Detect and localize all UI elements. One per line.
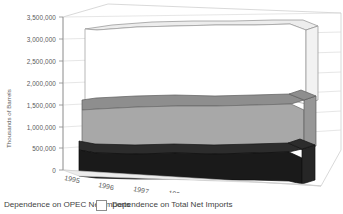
y-tick-label: 1,000,000 <box>27 124 57 131</box>
chart-root: 3,500,000 3,000,000 2,500,000 2,000,000 … <box>0 0 343 214</box>
legend-swatch-icon <box>96 200 107 211</box>
y-axis-tick-labels: 3,500,000 3,000,000 2,500,000 2,000,000 … <box>27 14 57 174</box>
y-tick-label: 1,500,000 <box>27 102 57 109</box>
y-axis-title: Thousands of Barrels <box>5 89 12 148</box>
x-tick-label: 1997 <box>133 185 150 193</box>
y-tick-label: 500,000 <box>32 145 56 152</box>
series-middle-band <box>82 90 316 151</box>
y-axis <box>59 17 63 170</box>
series-total-net-imports <box>85 20 318 106</box>
legend-label: Dependence on Total Net Imports <box>112 201 232 209</box>
x-tick-label: 1996 <box>98 181 115 191</box>
chart-legend: Dependence on OPEC Net Imports Dependenc… <box>0 196 343 214</box>
three-d-area-chart: 3,500,000 3,000,000 2,500,000 2,000,000 … <box>0 0 343 193</box>
y-tick-label: 3,000,000 <box>27 36 57 43</box>
y-tick-label: 0 <box>52 167 56 174</box>
y-tick-label: 2,000,000 <box>27 80 57 87</box>
legend-item-total[interactable]: Dependence on Total Net Imports <box>96 200 232 211</box>
x-tick-label: 1998 <box>168 189 185 193</box>
y-tick-label: 2,500,000 <box>27 58 57 65</box>
y-tick-label: 3,500,000 <box>27 14 57 21</box>
chart-plot-area: 3,500,000 3,000,000 2,500,000 2,000,000 … <box>0 0 343 193</box>
